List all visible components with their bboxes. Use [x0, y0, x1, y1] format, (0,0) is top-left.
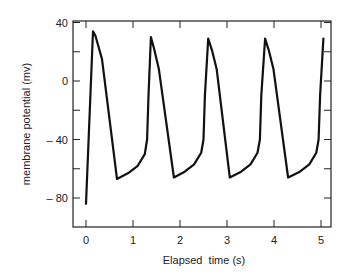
membrane-potential-line: [86, 31, 323, 204]
x-tick-label: 1: [130, 234, 136, 246]
y-tick-label: – 40: [47, 134, 68, 146]
x-tick-label: 5: [318, 234, 324, 246]
plot-frame: [73, 21, 331, 227]
membrane-potential-chart: 012345 400– 40– 80 Elapsed time (s) memb…: [0, 0, 348, 279]
y-tick-labels: 400– 40– 80: [47, 17, 68, 205]
y-axis-label: membrane potential (mv): [20, 63, 32, 185]
x-axis-label: Elapsed time (s): [163, 254, 246, 266]
axis-ticks: [73, 21, 331, 227]
x-tick-label: 4: [271, 234, 277, 246]
x-tick-label: 2: [177, 234, 183, 246]
y-tick-label: 0: [62, 75, 68, 87]
x-tick-label: 3: [224, 234, 230, 246]
x-tick-label: 0: [83, 234, 89, 246]
x-tick-labels: 012345: [83, 234, 324, 246]
y-tick-label: – 80: [47, 192, 68, 204]
y-tick-label: 40: [56, 17, 68, 29]
